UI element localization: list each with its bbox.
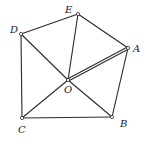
point-D: [19, 32, 22, 35]
point-B: [110, 115, 113, 118]
point-E: [76, 12, 79, 15]
segment-EO: [68, 14, 78, 80]
segment-CO: [22, 80, 68, 118]
label-D: D: [9, 24, 18, 35]
label-C: C: [18, 124, 26, 135]
segment-CD: [21, 34, 22, 118]
pentagon-figure: ABCDEO: [0, 0, 152, 148]
geometry-diagram: ABCDEO: [0, 0, 152, 148]
point-A: [126, 46, 129, 49]
label-O: O: [64, 84, 72, 95]
segment-OA: [67, 47, 127, 79]
label-A: A: [132, 43, 140, 54]
segment-AB: [112, 48, 128, 117]
label-E: E: [64, 4, 73, 15]
segment-EA: [78, 14, 128, 48]
segment-DO: [21, 34, 68, 80]
segment-OA: [69, 49, 129, 81]
segment-OB: [68, 80, 112, 117]
point-C: [20, 116, 23, 119]
segment-DE: [21, 14, 78, 34]
point-O: [66, 78, 69, 81]
segment-BC: [22, 117, 112, 118]
label-B: B: [119, 118, 127, 129]
